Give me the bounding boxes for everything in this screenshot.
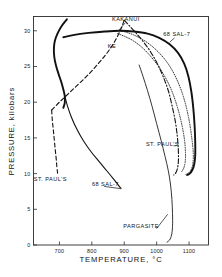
x-tick-label: 800 bbox=[87, 248, 97, 254]
curve-label: 68 SAL-7 bbox=[163, 31, 190, 37]
data-series-curve bbox=[52, 110, 58, 176]
x-tick-label: 700 bbox=[55, 248, 65, 254]
y-tick-label: 0 bbox=[27, 242, 30, 248]
y-axis-tick-labels: 051015202530 bbox=[24, 28, 30, 248]
curve-label: KAKANUI bbox=[112, 16, 140, 22]
y-tick-label: 25 bbox=[24, 63, 30, 69]
y-tick-label: 15 bbox=[24, 135, 30, 141]
chart-plot-area: 70080090010001100 051015202530 KAKANUIKE… bbox=[0, 0, 222, 277]
y-axis-ticks bbox=[34, 31, 38, 245]
leader-lines-group bbox=[104, 23, 177, 229]
curve-label: PARGASITE bbox=[123, 223, 159, 229]
curve-label: ST. PAUL'S bbox=[146, 141, 179, 147]
curve-label: 68 SAL-7 bbox=[92, 181, 119, 187]
curve-label: KE bbox=[108, 43, 116, 49]
data-series-curve bbox=[63, 31, 195, 175]
x-axis-tick-labels: 70080090010001100 bbox=[55, 248, 196, 254]
y-tick-label: 30 bbox=[24, 28, 30, 34]
sal7-right-leader bbox=[170, 38, 175, 42]
data-series-curve bbox=[120, 31, 194, 175]
data-series-curve bbox=[65, 95, 121, 189]
data-series-group bbox=[52, 19, 196, 242]
chart-figure: 70080090010001100 051015202530 KAKANUIKE… bbox=[0, 0, 222, 277]
x-tick-label: 900 bbox=[119, 248, 129, 254]
y-tick-label: 5 bbox=[27, 206, 30, 212]
y-axis-title: PRESSURE, kilobars bbox=[7, 87, 16, 175]
curve-label: ST. PAUL'S bbox=[34, 176, 67, 182]
x-axis-ticks bbox=[59, 242, 189, 246]
y-tick-label: 20 bbox=[24, 99, 30, 105]
data-series-curve bbox=[139, 65, 172, 242]
axis-frame bbox=[34, 17, 209, 246]
x-tick-label: 1000 bbox=[150, 248, 163, 254]
x-axis-title: TEMPERATURE, °C bbox=[79, 255, 162, 264]
y-tick-label: 10 bbox=[24, 171, 30, 177]
curve-annotations: KAKANUIKE68 SAL-7ST. PAUL'SST. PAUL'S68 … bbox=[34, 16, 190, 229]
x-tick-label: 1100 bbox=[183, 248, 195, 254]
data-series-curve bbox=[124, 20, 178, 175]
